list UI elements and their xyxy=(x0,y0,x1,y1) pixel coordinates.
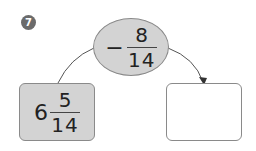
operation-bubble: − 8 14 xyxy=(93,18,169,76)
start-value-box: 6 5 14 xyxy=(19,83,95,141)
answer-box[interactable] xyxy=(166,83,242,141)
fraction-numerator: 8 xyxy=(133,25,150,45)
fraction-denominator: 14 xyxy=(51,115,78,135)
fraction-denominator: 14 xyxy=(128,50,155,70)
operation-fraction: 8 14 xyxy=(127,25,157,70)
minus-operator: − xyxy=(105,35,123,60)
fraction-numerator: 5 xyxy=(57,90,74,110)
start-fraction: 5 14 xyxy=(50,90,80,135)
mixed-number-whole: 6 xyxy=(34,100,48,125)
